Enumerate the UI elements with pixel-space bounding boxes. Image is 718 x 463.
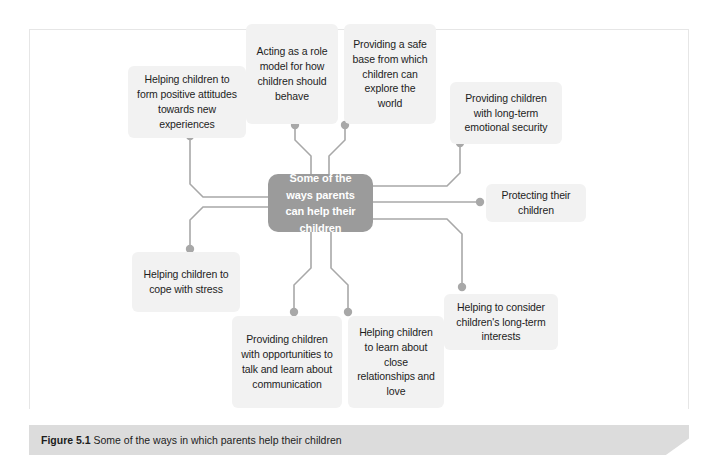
node-acting-as-role-model[interactable]: Acting as a role model for how children … [246,24,338,124]
node-consider-long-term-interests[interactable]: Helping to consider children's long-term… [444,294,558,350]
center-node[interactable]: Some of the ways parents can help their … [268,174,373,232]
node-learn-close-relationships[interactable]: Helping children to learn about close re… [348,316,444,408]
node-long-term-emotional-security[interactable]: Providing children with long-term emotio… [450,82,562,144]
page-top-edge [0,0,718,14]
node-providing-safe-base[interactable]: Providing a safe base from which childre… [344,24,436,124]
figure-caption-bar: Figure 5.1 Some of the ways in which par… [29,425,689,455]
figure-container: Some of the ways parents can help their … [0,0,718,463]
node-protecting-their-children[interactable]: Protecting their children [486,184,586,222]
node-cope-with-stress[interactable]: Helping children to cope with stress [132,252,240,312]
figure-caption-text: Figure 5.1 Some of the ways in which par… [29,434,342,446]
figure-caption-label: Figure 5.1 [41,434,91,446]
node-form-positive-attitudes[interactable]: Helping children to form positive attitu… [128,66,246,138]
node-opportunities-to-talk[interactable]: Providing children with opportunities to… [232,316,342,408]
figure-caption-body: Some of the ways in which parents help t… [91,434,342,446]
